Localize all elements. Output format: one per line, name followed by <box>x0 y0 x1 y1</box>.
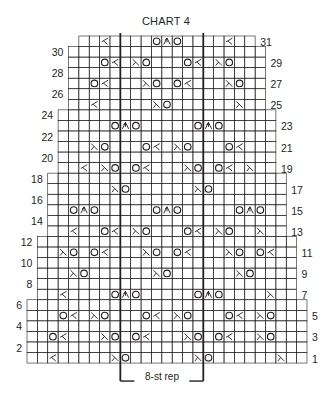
ssk-icon <box>91 144 97 150</box>
row-label-even: 16 <box>31 194 43 206</box>
chart-cell <box>151 321 161 332</box>
chart-cell <box>141 215 151 226</box>
chart-cell <box>214 236 224 247</box>
chart-cell <box>110 226 120 237</box>
yarn-over-icon <box>153 249 160 256</box>
chart-cell <box>141 47 151 58</box>
chart-cell <box>79 47 89 58</box>
chart-cell <box>172 268 182 279</box>
chart-cell <box>89 300 99 311</box>
chart-cell <box>141 331 151 342</box>
chart-cell <box>224 68 234 79</box>
chart-cell <box>110 342 120 353</box>
chart-cell <box>255 131 265 142</box>
chart-cell <box>110 152 120 163</box>
chart-cell <box>120 47 130 58</box>
chart-cell <box>89 342 99 353</box>
chart-cell <box>141 268 151 279</box>
chart-cell <box>172 258 182 269</box>
chart-cell <box>48 268 58 279</box>
chart-cell <box>255 57 265 68</box>
row-label-odd: 17 <box>291 184 303 196</box>
chart-cell <box>193 205 203 216</box>
chart-cell <box>110 279 120 290</box>
chart-cell <box>58 300 68 311</box>
chart-cell <box>162 289 172 300</box>
chart-cell <box>214 152 224 163</box>
chart-cell <box>234 110 244 121</box>
chart-cell <box>286 258 296 269</box>
chart-cell <box>172 215 182 226</box>
chart-cell <box>131 47 141 58</box>
chart-cell <box>48 215 58 226</box>
chart-cell <box>131 321 141 332</box>
row-label-odd: 21 <box>281 142 293 154</box>
chart-cell <box>172 89 182 100</box>
row-label-odd: 13 <box>291 226 303 238</box>
chart-cell <box>100 89 110 100</box>
chart-cell <box>151 142 161 153</box>
chart-cell <box>89 89 99 100</box>
k2tog-icon <box>112 59 118 65</box>
chart-cell <box>100 321 110 332</box>
chart-cell <box>214 131 224 142</box>
chart-cell <box>110 310 120 321</box>
chart-cell <box>151 300 161 311</box>
k2tog-icon <box>226 333 232 339</box>
chart-cell <box>27 300 37 311</box>
chart-cell <box>245 247 255 258</box>
chart-cell <box>172 331 182 342</box>
k2tog-icon <box>236 144 242 150</box>
chart-cell <box>203 173 213 184</box>
chart-cell <box>183 289 193 300</box>
yarn-over-icon <box>70 207 77 214</box>
chart-cell <box>172 289 182 300</box>
chart-cell <box>276 215 286 226</box>
row-label-even: 4 <box>16 320 22 332</box>
yarn-over-icon <box>60 312 67 319</box>
chart-cell <box>37 310 47 321</box>
chart-cell <box>266 342 276 353</box>
chart-cell <box>110 321 120 332</box>
yarn-over-icon <box>257 207 264 214</box>
repeat-label: 8-st rep <box>132 371 192 382</box>
row-label-odd: 27 <box>271 78 283 90</box>
chart-cell <box>89 36 99 47</box>
chart-cell <box>89 57 99 68</box>
chart-cell <box>245 342 255 353</box>
chart-cell <box>255 289 265 300</box>
chart-cell <box>172 57 182 68</box>
chart-cell <box>141 300 151 311</box>
chart-cell <box>110 205 120 216</box>
yarn-over-icon <box>153 80 160 87</box>
chart-cell <box>276 310 286 321</box>
yarn-over-icon <box>226 59 233 66</box>
chart-cell <box>183 110 193 121</box>
chart-cell <box>89 353 99 364</box>
chart-cell <box>183 120 193 131</box>
chart-cell <box>48 226 58 237</box>
chart-cell <box>120 194 130 205</box>
chart-cell <box>131 236 141 247</box>
ssk-icon <box>133 59 139 65</box>
chart-cell <box>193 268 203 279</box>
centered-double-decrease-icon <box>122 122 128 128</box>
chart-cell <box>48 300 58 311</box>
chart-cell <box>141 120 151 131</box>
chart-cell <box>100 236 110 247</box>
chart-cell <box>110 68 120 79</box>
ssk-icon <box>143 249 149 255</box>
chart-cell <box>276 205 286 216</box>
chart-cell <box>266 194 276 205</box>
chart-cell <box>245 289 255 300</box>
chart-cell <box>48 184 58 195</box>
chart-cell <box>100 300 110 311</box>
yarn-over-icon <box>174 38 181 45</box>
chart-cell <box>79 36 89 47</box>
yarn-over-icon <box>174 80 181 87</box>
chart-cell <box>193 36 203 47</box>
yarn-over-icon <box>50 333 57 340</box>
chart-cell <box>224 120 234 131</box>
ssk-icon <box>112 186 118 192</box>
chart-cell <box>141 194 151 205</box>
